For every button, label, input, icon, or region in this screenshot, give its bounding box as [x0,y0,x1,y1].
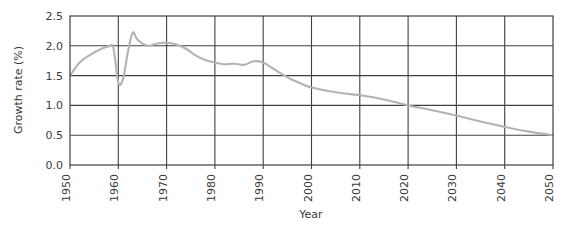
x-tick-label: 2000 [302,174,315,202]
chart-canvas: 0.00.51.01.52.02.5 195019601970198019902… [0,0,569,238]
y-axis-title: Growth rate (%) [12,46,25,134]
x-tick-label: 1990 [253,174,266,202]
y-tick-label: 2.0 [46,40,64,53]
x-tick-label: 1960 [108,174,121,202]
x-tick-label: 1970 [157,174,170,202]
y-tick-label: 1.0 [46,99,64,112]
chart-background [0,0,569,238]
x-axis-title: Year [298,208,323,221]
x-tick-label: 2020 [398,174,411,202]
x-tick-label: 2030 [446,174,459,202]
x-tick-label: 1980 [205,174,218,202]
y-tick-label: 0.5 [46,129,64,142]
y-tick-label: 0.0 [46,159,64,172]
x-tick-label: 1950 [60,174,73,202]
x-tick-label: 2040 [495,174,508,202]
y-tick-label: 1.5 [46,70,64,83]
growth-rate-line-chart: 0.00.51.01.52.02.5 195019601970198019902… [0,0,569,238]
x-tick-label: 2010 [350,174,363,202]
x-tick-label: 2050 [543,174,556,202]
y-tick-label: 2.5 [46,10,64,23]
